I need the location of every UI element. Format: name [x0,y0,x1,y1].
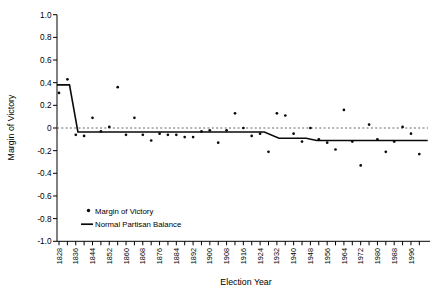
x-tick-label: 1932 [272,248,281,264]
data-point [359,164,362,167]
x-tick-label: 1844 [88,248,97,264]
data-point [141,133,144,136]
data-point [208,129,211,132]
y-tick-label: 0.4 [40,79,52,88]
data-point [418,153,421,156]
y-tick-label: -0.6 [37,192,52,201]
data-point [267,150,270,153]
y-tick-label: -0.8 [37,215,52,224]
x-tick-label: 1940 [289,248,298,264]
x-tick-label: 1900 [205,248,214,264]
y-tick-label: 0.6 [40,56,52,65]
data-point [116,86,119,89]
data-point [326,141,329,144]
x-tick-label: 1828 [55,248,64,264]
data-point [100,130,103,133]
y-tick-label: -0.4 [37,169,52,178]
y-tick-label: 0.2 [40,101,52,110]
data-point [150,139,153,142]
x-tick-label: 1884 [172,248,181,264]
data-point [200,130,203,133]
data-point [376,138,379,141]
data-point [334,148,337,151]
y-axis-title: Margin of Victory [6,94,16,160]
data-point [351,140,354,143]
y-tick-label: 0.8 [40,33,52,42]
legend-dot-icon [87,209,90,212]
data-point [250,135,253,138]
data-point [401,126,404,129]
x-tick-label: 1860 [122,248,131,264]
data-point [410,132,413,135]
data-point [343,109,346,112]
data-point [317,138,320,141]
chart-svg: Margin of Victory Election Year 1.00.80.… [0,0,435,296]
x-tick-label: 1924 [256,248,265,264]
x-tick-label: 1916 [239,248,248,264]
data-point [242,127,245,130]
legend-label-normal-partisan-balance: Normal Partisan Balance [95,220,181,229]
data-point [384,150,387,153]
margin-of-victory-chart: Margin of Victory Election Year 1.00.80.… [0,0,435,296]
x-tick-label: 1988 [390,248,399,264]
data-point [83,135,86,138]
data-point [393,140,396,143]
data-point [276,112,279,115]
data-point [234,112,237,115]
data-point [309,127,312,130]
data-point [167,133,170,136]
data-point [175,133,178,136]
data-point [158,132,161,135]
y-tick-label: 1.0 [40,11,52,20]
y-tick-label: -0.2 [37,147,52,156]
legend-label-margin-of-victory: Margin of Victory [95,207,153,216]
data-point [108,126,111,129]
data-point [217,141,220,144]
data-point [225,129,228,132]
data-point [133,116,136,119]
x-tick-label: 1972 [356,248,365,264]
x-tick-label: 1852 [105,248,114,264]
x-axis-title: Election Year [220,277,271,287]
legend: Margin of Victory Normal Partisan Balanc… [81,207,181,230]
data-point [74,133,77,136]
data-point [183,136,186,139]
x-tick-label: 1964 [340,248,349,264]
data-point [66,78,69,81]
data-point [292,132,295,135]
data-point [301,140,304,143]
x-tick-label: 1996 [407,248,416,264]
data-point [58,92,61,95]
y-tick-label: 0 [47,124,52,133]
x-tick-label: 1876 [155,248,164,264]
data-point [192,136,195,139]
data-point [284,114,287,117]
x-tick-label: 1892 [189,248,198,264]
data-point [259,132,262,135]
normal-partisan-balance-line [57,85,428,141]
data-point [125,133,128,136]
x-tick-label: 1980 [373,248,382,264]
data-point [368,123,371,126]
data-point [91,116,94,119]
x-tick-label: 1956 [323,248,332,264]
x-tick-label: 1836 [71,248,80,264]
x-tick-label: 1908 [222,248,231,264]
x-tick-label: 1948 [306,248,315,264]
y-tick-label: -1.0 [37,237,52,246]
x-tick-label: 1868 [138,248,147,264]
